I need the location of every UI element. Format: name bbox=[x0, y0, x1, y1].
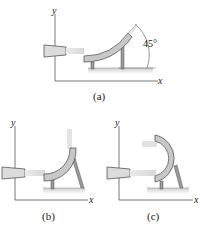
deflected-jet bbox=[67, 129, 72, 149]
water-jet bbox=[25, 170, 45, 176]
y-axis-label: y bbox=[114, 117, 120, 128]
vane-support-short bbox=[91, 62, 94, 69]
vane-support-diagonal bbox=[174, 165, 183, 188]
vane-support-short bbox=[51, 180, 54, 189]
y-axis-label: y bbox=[51, 5, 57, 16]
semicircular-vane bbox=[155, 135, 174, 182]
figure-a: y x 45° (a) bbox=[44, 5, 163, 103]
caption-a: (a) bbox=[93, 90, 106, 103]
caption-c: (c) bbox=[147, 210, 160, 223]
curved-vane bbox=[84, 33, 132, 62]
quarter-circle-vane bbox=[44, 148, 76, 181]
deflected-jet bbox=[128, 25, 137, 35]
nozzle-icon bbox=[44, 45, 66, 57]
nozzle-icon bbox=[2, 167, 25, 179]
water-jet bbox=[66, 48, 84, 54]
figure-b: y x (b) bbox=[2, 117, 94, 223]
figure-c: y x (c) bbox=[107, 117, 199, 223]
deflected-jet bbox=[142, 141, 157, 147]
x-axis-label: x bbox=[157, 75, 163, 86]
x-axis-label: x bbox=[193, 194, 199, 205]
caption-b: (b) bbox=[42, 210, 55, 223]
ground bbox=[88, 68, 153, 74]
ground bbox=[43, 188, 85, 194]
water-jet bbox=[130, 170, 156, 176]
angle-label: 45° bbox=[143, 38, 157, 49]
nozzle-icon bbox=[107, 167, 130, 179]
x-axis-label: x bbox=[88, 194, 94, 205]
vane-support-short bbox=[160, 181, 163, 189]
ground bbox=[147, 188, 189, 194]
y-axis-label: y bbox=[10, 117, 16, 128]
diagram-canvas: y x 45° (a) y x bbox=[0, 0, 204, 230]
